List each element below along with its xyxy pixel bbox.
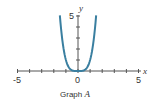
chart: x -5 0 5 y 5 Graph A: [0, 0, 150, 106]
x-tick-label-zero: 0: [75, 75, 80, 85]
y-tick-label-max: 5: [69, 11, 74, 21]
x-axis: x -5 0 5: [13, 66, 147, 85]
x-tick-label-max: 5: [136, 75, 141, 85]
y-axis: y 5: [69, 3, 83, 71]
chart-title: Graph A: [60, 89, 90, 99]
x-tick-label-min: -5: [13, 75, 21, 85]
x-axis-label: x: [142, 66, 147, 76]
y-axis-label: y: [78, 3, 83, 13]
